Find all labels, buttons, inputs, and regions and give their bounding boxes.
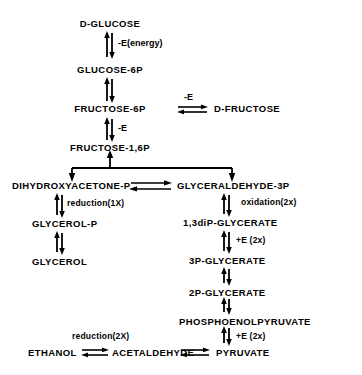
bracket-f16p-split [69, 150, 235, 182]
edge-label-oxidation-2x: oxidation(2x) [241, 197, 297, 207]
arrow-3pg-to-2pg [221, 267, 232, 286]
node-glyceraldehyde-3p: GLYCERALDEHYDE-3P [177, 180, 290, 191]
glycolysis-pathway-diagram: D-GLUCOSE GLUCOSE-6P FRUCTOSE-6P D-FRUCT… [0, 0, 362, 375]
node-2p-glycerate: 2P-GLYCERATE [189, 287, 266, 298]
arrow-glycerol-p-to-glycerol [54, 231, 65, 255]
node-ethanol: ETHANOL [28, 347, 77, 358]
arrow-f6p-to-d-fructose [177, 104, 208, 114]
arrow-dhap-to-glycerol-p [54, 193, 65, 218]
node-d-glucose: D-GLUCOSE [80, 18, 141, 29]
arrow-glucose-to-g6p [104, 31, 115, 59]
edge-label-e-minus-fructose: -E [184, 92, 193, 102]
arrow-g6p-to-f6p [104, 77, 115, 103]
node-3p-glycerate: 3P-GLYCERATE [189, 255, 266, 266]
node-glucose-6p: GLUCOSE-6P [77, 64, 143, 75]
node-acetaldehyde: ACETALDEHYDE [112, 347, 194, 358]
node-1-3-dip-glycerate: 1,3diP-GLYCERATE [183, 217, 278, 228]
node-dihydroxyacetone-p: DIHYDROXYACETONE-P [12, 180, 131, 191]
node-glycerol: GLYCEROL [32, 256, 87, 267]
arrow-g3p-to-bpg [221, 193, 232, 217]
arrow-pep-to-pyruvate [221, 326, 232, 346]
edge-label-e-minus-f16p: -E [118, 123, 127, 133]
node-fructose-1-6p: FRUCTOSE-1,6P [70, 142, 150, 153]
node-pyruvate: PYRUVATE [216, 347, 270, 358]
edge-label-e-energy: -E(energy) [118, 38, 163, 48]
arrow-bpg-to-3pg [221, 230, 232, 254]
node-fructose-6p: FRUCTOSE-6P [74, 103, 145, 114]
edge-label-plus-e-2x-pep: +E (2x) [236, 331, 266, 341]
node-phosphoenolpyruvate: PHOSPHOENOLPYRUVATE [179, 316, 311, 327]
arrow-ethanol-to-acetaldehyde [81, 347, 109, 357]
node-glycerol-p: GLYCEROL-P [32, 218, 97, 229]
arrow-f6p-to-f16p [104, 117, 115, 142]
edge-label-plus-e-2x-bpg: +E (2x) [236, 235, 266, 245]
arrow-dhap-to-g3p [129, 180, 172, 191]
arrow-2pg-to-pep [221, 297, 232, 315]
edge-label-reduction-2x: reduction(2X) [72, 331, 129, 341]
node-d-fructose: D-FRUCTOSE [214, 103, 280, 114]
edge-label-reduction-1x: reduction(1X) [67, 198, 124, 208]
